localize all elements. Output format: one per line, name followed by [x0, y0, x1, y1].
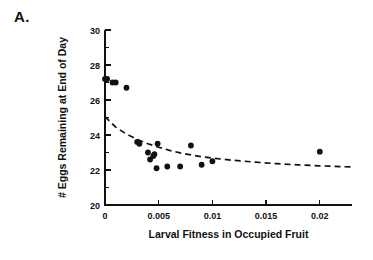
- data-point: [188, 143, 194, 149]
- data-point: [104, 76, 110, 82]
- axis-spines: [105, 30, 352, 205]
- x-axis-title: Larval Fitness in Occupied Fruit: [149, 228, 309, 240]
- x-tick-label: 0.01: [204, 211, 222, 221]
- data-point: [136, 141, 142, 147]
- data-point: [164, 164, 170, 170]
- y-tick-label: 28: [90, 61, 100, 71]
- x-tick-label: 0: [102, 211, 107, 221]
- figure-panel-a: A. 20222426283000.0050.010.0150.02Larval…: [0, 0, 373, 260]
- y-tick-label: 24: [90, 131, 100, 141]
- x-tick-label: 0.005: [147, 211, 170, 221]
- data-point: [145, 150, 151, 156]
- data-point: [113, 80, 119, 86]
- data-point: [152, 151, 158, 157]
- data-point: [317, 149, 323, 155]
- data-point: [154, 165, 160, 171]
- fit-curve-dashed: [105, 117, 352, 167]
- y-tick-label: 30: [90, 26, 100, 36]
- data-point: [209, 158, 215, 164]
- y-tick-label: 26: [90, 96, 100, 106]
- data-point: [155, 141, 161, 147]
- data-point: [124, 85, 130, 91]
- x-tick-label: 0.015: [255, 211, 278, 221]
- data-point: [177, 164, 183, 170]
- y-tick-label: 20: [90, 201, 100, 211]
- y-tick-label: 22: [90, 166, 100, 176]
- y-axis-title: # Eggs Remaining at End of Day: [56, 37, 68, 198]
- x-tick-label: 0.02: [311, 211, 329, 221]
- data-point: [199, 162, 205, 168]
- scatter-plot: 20222426283000.0050.010.0150.02Larval Fi…: [0, 0, 373, 260]
